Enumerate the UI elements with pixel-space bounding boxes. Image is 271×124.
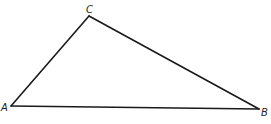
vertex-label-b: B xyxy=(261,107,268,118)
triangle-abc xyxy=(11,16,259,109)
vertex-label-a: A xyxy=(0,102,8,113)
edge-bc xyxy=(89,16,259,109)
vertex-label-c: C xyxy=(86,4,93,15)
edge-ab xyxy=(11,106,259,109)
edge-ca xyxy=(11,16,89,106)
triangle-diagram: A B C xyxy=(0,0,271,124)
